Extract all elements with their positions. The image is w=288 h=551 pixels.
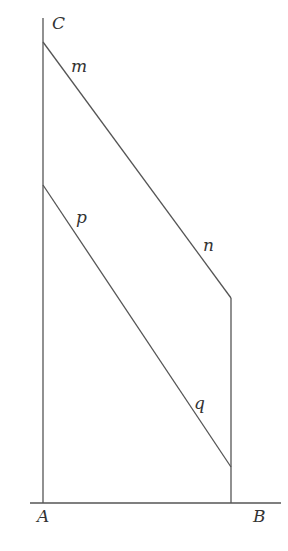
label-b: B xyxy=(252,506,266,526)
label-p: p xyxy=(76,207,87,227)
label-n: n xyxy=(203,235,214,255)
geometry-diagram: C m n p q A B xyxy=(0,0,288,551)
label-m: m xyxy=(71,56,87,76)
label-q: q xyxy=(194,393,205,413)
line-pq xyxy=(43,185,231,467)
line-mn xyxy=(43,42,231,298)
label-a: A xyxy=(35,506,49,526)
label-c: C xyxy=(52,13,65,33)
